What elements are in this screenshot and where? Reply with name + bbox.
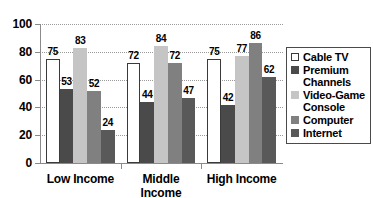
y-axis-line	[40, 24, 41, 163]
bar-value-label: 47	[176, 86, 200, 96]
x-axis-group-label: High Income	[201, 172, 282, 186]
bar	[154, 46, 168, 163]
bar	[46, 59, 60, 163]
legend-item[interactable]: Video-Game Console	[291, 89, 367, 113]
legend-swatch-icon	[291, 91, 299, 99]
bar-value-label: 62	[257, 65, 281, 75]
legend-label: Computer	[303, 114, 353, 126]
y-tick-label: 80	[0, 45, 32, 59]
bar	[127, 63, 141, 163]
y-tick-label: 40	[0, 100, 32, 114]
legend-item[interactable]: Computer	[291, 114, 367, 126]
chart-legend: Cable TVPremium ChannelsVideo-Game Conso…	[286, 47, 371, 144]
legend-item[interactable]: Cable TV	[291, 51, 367, 63]
bar-value-label: 42	[216, 93, 240, 103]
bar	[101, 130, 115, 163]
bar-value-label: 72	[122, 51, 146, 61]
bar	[182, 98, 196, 163]
legend-swatch-icon	[291, 66, 299, 74]
bar	[73, 48, 87, 163]
legend-label: Video-Game Console	[303, 89, 367, 113]
legend-swatch-icon	[291, 53, 299, 61]
bar-value-label: 75	[41, 47, 65, 57]
y-tick-label: 20	[0, 128, 32, 142]
gridline	[40, 24, 283, 25]
x-axis-group-label: Middle Income	[121, 172, 202, 198]
bar-value-label: 53	[55, 77, 79, 87]
bar-value-label: 52	[82, 79, 106, 89]
bar-chart: 020406080100 755383522472448472477542778…	[0, 0, 373, 198]
legend-item[interactable]: Premium Channels	[291, 64, 367, 88]
y-tick-label: 0	[0, 156, 32, 170]
bar-value-label: 24	[96, 118, 120, 128]
bar	[60, 89, 74, 163]
legend-swatch-icon	[291, 116, 299, 124]
bar	[168, 63, 182, 163]
bar-value-label: 84	[149, 34, 173, 44]
x-axis-separator-tick	[201, 163, 202, 169]
bar	[262, 77, 276, 163]
bar-value-label: 72	[163, 51, 187, 61]
bar-value-label: 86	[243, 31, 267, 41]
bar	[140, 102, 154, 163]
bar-value-label: 83	[68, 36, 92, 46]
legend-swatch-icon	[291, 129, 299, 137]
bar-value-label: 77	[230, 44, 254, 54]
legend-item[interactable]: Internet	[291, 127, 367, 139]
y-tick-label: 100	[0, 17, 32, 31]
y-tick-label: 60	[0, 73, 32, 87]
bar	[235, 56, 249, 163]
bar-value-label: 44	[135, 90, 159, 100]
legend-label: Internet	[303, 127, 342, 139]
legend-label: Cable TV	[303, 51, 348, 63]
bar	[249, 43, 263, 163]
x-axis-separator-tick	[121, 163, 122, 169]
x-axis-line	[40, 163, 283, 164]
bar	[207, 59, 221, 163]
bar	[221, 105, 235, 163]
legend-label: Premium Channels	[303, 64, 367, 88]
x-axis-group-label: Low Income	[40, 172, 121, 186]
bar-value-label: 75	[202, 47, 226, 57]
